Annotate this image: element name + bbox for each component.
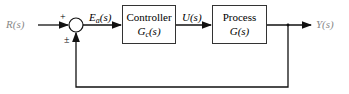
feedback-sign: ± <box>64 34 70 45</box>
process-block: Process G(s) <box>212 5 267 44</box>
controller-block: Controller Gc(s) <box>122 5 176 44</box>
plus-sign: + <box>60 11 66 22</box>
output-label: Y(s) <box>316 18 334 30</box>
control-signal-label: U(s) <box>182 11 202 23</box>
error-signal-label: Ea(s) <box>89 11 111 25</box>
input-label: R(s) <box>6 18 24 30</box>
process-transfer-function: G(s) <box>213 24 266 38</box>
process-title: Process <box>213 10 266 24</box>
controller-title: Controller <box>123 10 175 24</box>
controller-transfer-function: Gc(s) <box>123 24 175 42</box>
